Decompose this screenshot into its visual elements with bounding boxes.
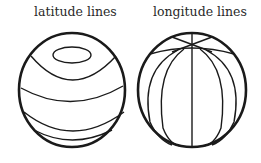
- latitude-line-upper: [31, 56, 116, 80]
- latitude-sphere: [19, 33, 125, 147]
- latitude-line-lower: [24, 112, 124, 131]
- longitude-sphere: [138, 33, 246, 147]
- longitude-line-outer-left: [148, 50, 178, 145]
- longitude-line-inner-left: [161, 49, 184, 146]
- latitude-line-polar-cap: [53, 47, 91, 63]
- longitude-line-inner-right: [200, 49, 223, 146]
- latitude-line-middle: [21, 86, 123, 102]
- spheres-diagram: [0, 0, 261, 163]
- longitude-line-outer-right: [206, 50, 236, 145]
- latitude-sphere-outline: [19, 33, 125, 147]
